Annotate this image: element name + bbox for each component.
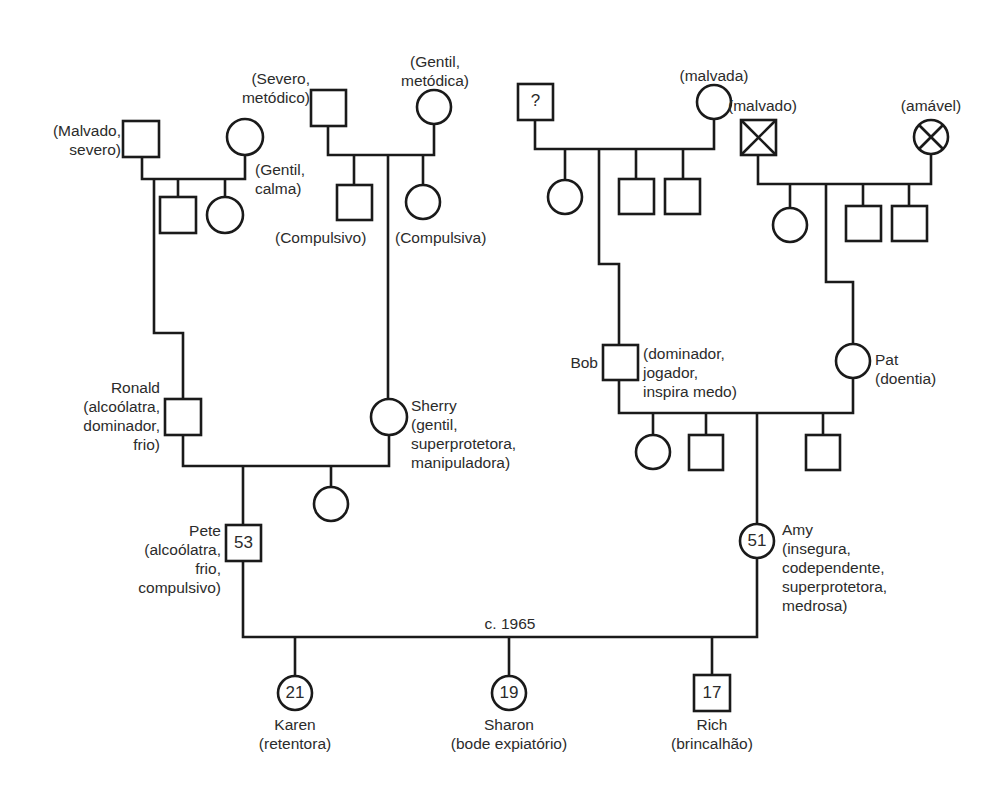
female-compulsiva [406,185,440,219]
male-sibling-ronald [160,197,196,233]
label-rich-role: (brincalhão) [652,734,772,753]
male-ronald [165,399,201,435]
age-sharon: 19 [492,683,526,703]
female-sherry [371,399,407,435]
female-gentil-calma [227,119,263,155]
male-sibling-amy-2 [806,435,840,470]
label-severo-metodico: (Severo, metódico) [242,69,310,107]
female-gentil-metodica [417,90,451,124]
male-malvado-deceased [741,120,776,155]
label-sharon-name: Sharon [429,715,589,734]
family-severo-lines [328,124,434,399]
female-sibling-pat [773,208,807,242]
age-amy: 51 [740,531,774,551]
male-sibling-pat-1 [846,206,881,241]
label-malvada: (malvada) [674,66,754,85]
label-marriage-date: c. 1965 [470,614,550,633]
male-sibling-pat-2 [892,206,927,241]
age-rich: 17 [694,683,730,703]
label-bob-name: Bob [570,353,598,372]
female-pat [836,344,870,378]
age-karen: 21 [278,683,312,703]
female-sibling-amy [636,435,670,469]
female-malvada [697,85,731,119]
label-ronald: Ronald (alcoólatra, dominador, frio) [83,378,160,454]
label-malvado-deceased: (malvado) [728,96,797,115]
label-rich-name: Rich [652,715,772,734]
label-sharon-role: (bode expiatório) [429,734,589,753]
male-sibling-amy-1 [689,435,723,470]
male-sibling-bob-1 [619,179,654,214]
label-compulsivo: (Compulsivo) [275,228,366,247]
family-malvado-lines [142,155,245,399]
female-sibling-ronald [207,197,243,233]
male-sibling-bob-2 [665,179,700,214]
female-sibling-pete [314,487,348,521]
label-malvado-severo: (Malvado, severo) [53,121,121,159]
label-amy: Amy (insegura, codependente, superprotet… [782,520,887,615]
label-unknown-father: ? [518,91,553,111]
label-pat: Pat (doentia) [875,350,936,388]
female-sibling-bob [548,180,582,214]
male-severo-metodico [311,90,346,126]
label-bob-traits: (dominador, jogador, inspira medo) [643,344,737,401]
male-bob [603,345,638,380]
label-compulsiva: (Compulsiva) [395,228,486,247]
family-ronald-sherry-lines [183,435,389,525]
family-unknown-lines [535,119,714,345]
label-gentil-metodica: (Gentil, metódica) [395,52,475,90]
family-malvado-deceased-lines [758,154,931,344]
male-compulsivo [337,185,372,220]
label-gentil-calma: (Gentil, calma) [255,160,305,198]
label-karen-name: Karen [235,715,355,734]
label-pete: Pete (alcoólatra, frio, compulsivo) [138,521,221,597]
label-karen-role: (retentora) [235,734,355,753]
label-sherry: Sherry (gentil, superprotetora, manipula… [411,396,516,472]
male-malvado-severo [123,121,159,157]
age-pete: 53 [226,533,261,553]
label-amavel-deceased: (amável) [891,96,971,115]
female-amavel-deceased [914,120,948,154]
